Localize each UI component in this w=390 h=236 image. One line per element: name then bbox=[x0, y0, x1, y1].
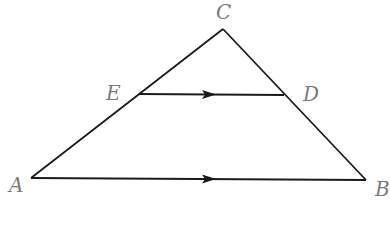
segment-ab bbox=[31, 178, 366, 180]
label-a: A bbox=[7, 173, 23, 197]
triangle-diagram: C E D A B bbox=[0, 0, 390, 236]
label-c: C bbox=[216, 0, 231, 24]
label-b: B bbox=[374, 177, 390, 201]
label-d: D bbox=[302, 82, 319, 106]
segment-cb bbox=[223, 29, 366, 180]
segment-ac bbox=[31, 29, 223, 178]
label-e: E bbox=[105, 81, 121, 105]
